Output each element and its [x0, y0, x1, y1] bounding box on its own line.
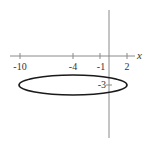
x-tick-label--1: -1 [97, 61, 105, 72]
x-tick-label--10: -10 [13, 61, 26, 72]
x-tick-label-2: 2 [125, 61, 130, 72]
ellipse-plot: -10 -4 -1 2 -3 x [0, 0, 150, 141]
x-tick-label--4: -4 [69, 61, 77, 72]
x-axis-label: x [136, 49, 142, 61]
y-tick-label--3: -3 [98, 79, 106, 90]
